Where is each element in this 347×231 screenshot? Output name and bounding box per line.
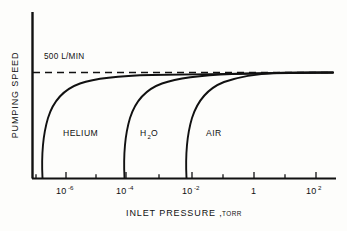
- reference-line-label: 500 L/MIN: [44, 52, 84, 61]
- x-tick-label-4: 1: [251, 186, 256, 196]
- svg-text:-2: -2: [194, 184, 200, 191]
- curve-label-air: AIR: [206, 128, 222, 138]
- x-axis-title: INLET PRESSURE , TORR: [126, 208, 242, 218]
- svg-text:10: 10: [182, 186, 192, 196]
- svg-text:10: 10: [306, 186, 316, 196]
- chart-figure: 500 L/MIN HELIUM H 2 O AIR 10 -6 10 -4 1…: [0, 0, 347, 231]
- chart-background: [0, 0, 347, 231]
- svg-text:H: H: [140, 128, 147, 138]
- curve-label-helium: HELIUM: [63, 128, 98, 138]
- svg-text:10: 10: [56, 186, 66, 196]
- svg-text:-4: -4: [128, 184, 134, 191]
- svg-text:1: 1: [251, 186, 256, 196]
- svg-text:2: 2: [318, 184, 322, 191]
- pumping-speed-chart: 500 L/MIN HELIUM H 2 O AIR 10 -6 10 -4 1…: [0, 0, 347, 231]
- svg-text:O: O: [151, 128, 158, 138]
- svg-text:INLET PRESSURE ,: INLET PRESSURE ,: [126, 208, 223, 218]
- y-axis-title: PUMPING SPEED: [10, 52, 20, 139]
- svg-text:-6: -6: [68, 184, 74, 191]
- svg-text:10: 10: [116, 186, 126, 196]
- svg-text:TORR: TORR: [222, 210, 242, 217]
